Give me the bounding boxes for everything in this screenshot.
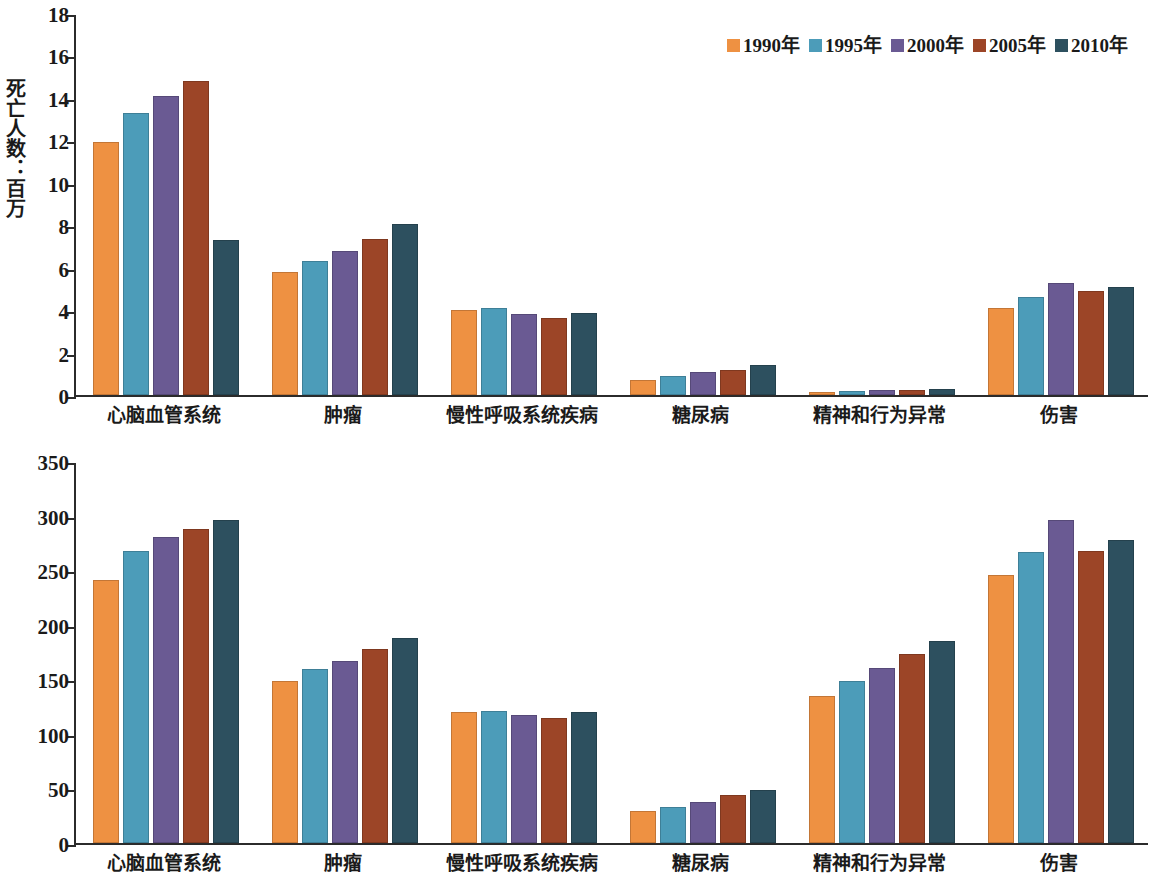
x-axis-labels-deaths: 心脑血管系统肿瘤慢性呼吸系统疾病糖尿病精神和行为异常伤害 xyxy=(74,400,1146,430)
bar xyxy=(899,390,925,395)
y-axis-tick-label: 2 xyxy=(59,342,70,367)
bar xyxy=(511,715,537,843)
x-axis-label: 心脑血管系统 xyxy=(107,400,221,427)
y-axis-tick-label: 250 xyxy=(38,560,70,585)
bar xyxy=(511,314,537,395)
x-axis-label: 精神和行为异常 xyxy=(813,400,946,427)
x-axis-label: 肿瘤 xyxy=(324,848,362,875)
bar-group xyxy=(971,463,1150,843)
bar xyxy=(809,392,835,395)
bar xyxy=(481,711,507,843)
x-axis-label: 伤害 xyxy=(1040,400,1078,427)
bar xyxy=(630,380,656,395)
bar xyxy=(1048,283,1074,395)
y-axis-tick-label: 6 xyxy=(59,257,70,282)
bar-group xyxy=(792,15,971,395)
bar xyxy=(362,239,388,395)
bar xyxy=(1048,520,1074,843)
bar xyxy=(302,261,328,395)
x-axis-label: 伤害 xyxy=(1040,848,1078,875)
bar xyxy=(750,365,776,395)
bar xyxy=(929,641,955,843)
y-axis-tick-label: 14 xyxy=(48,87,69,112)
bar xyxy=(123,551,149,844)
bar xyxy=(481,308,507,395)
bar xyxy=(571,712,597,843)
y-axis-tick-label: 0 xyxy=(59,833,70,858)
plot-area-deaths: 024681012141618 xyxy=(74,15,1148,397)
y-axis-tick-label: 18 xyxy=(48,3,69,28)
bar xyxy=(899,654,925,843)
bar xyxy=(1108,287,1134,395)
bar xyxy=(1018,552,1044,843)
bar-group xyxy=(76,463,255,843)
bar xyxy=(153,96,179,395)
bar-group xyxy=(971,15,1150,395)
bar xyxy=(392,224,418,395)
bar xyxy=(332,661,358,843)
bar xyxy=(988,575,1014,843)
bar xyxy=(541,718,567,844)
bars-container-deaths xyxy=(76,15,1148,395)
bar xyxy=(451,712,477,843)
bar xyxy=(720,795,746,843)
bar xyxy=(1108,540,1134,843)
bar xyxy=(869,390,895,395)
bars-container-daly xyxy=(76,463,1148,843)
bar xyxy=(362,649,388,843)
y-axis-tick-label: 0 xyxy=(59,385,70,410)
x-axis-label: 糖尿病 xyxy=(672,848,729,875)
x-axis-label: 精神和行为异常 xyxy=(813,848,946,875)
y-axis-tick-label: 100 xyxy=(38,723,70,748)
bar xyxy=(93,142,119,395)
x-axis-label: 糖尿病 xyxy=(672,400,729,427)
bar xyxy=(839,681,865,843)
bar xyxy=(272,681,298,843)
y-axis-tick-label: 12 xyxy=(48,130,69,155)
bar-group xyxy=(255,463,434,843)
y-axis-tick-label: 150 xyxy=(38,669,70,694)
deaths-chart-panel: 死亡人数：百万 1990年1995年2000年2005年2010年 024681… xyxy=(0,0,1157,440)
bar xyxy=(93,580,119,843)
bar xyxy=(750,790,776,843)
y-axis-tick-label: 50 xyxy=(48,778,69,803)
y-axis-tick-label: 8 xyxy=(59,215,70,240)
y-axis-tick-label: 300 xyxy=(38,505,70,530)
bar xyxy=(213,240,239,395)
bar xyxy=(1078,551,1104,844)
bar xyxy=(392,638,418,843)
bar xyxy=(630,811,656,843)
bar xyxy=(690,802,716,843)
bar xyxy=(720,370,746,395)
bar-group xyxy=(255,15,434,395)
bar xyxy=(213,520,239,843)
y-axis-tick-label: 16 xyxy=(48,45,69,70)
y-axis-tick-label: 350 xyxy=(38,451,70,476)
bar xyxy=(123,113,149,395)
bar-group xyxy=(434,463,613,843)
bar xyxy=(660,807,686,843)
x-axis-label: 慢性呼吸系统疾病 xyxy=(446,400,598,427)
plot-area-daly: 050100150200250300350 xyxy=(74,463,1148,845)
chart-page: 死亡人数：百万 1990年1995年2000年2005年2010年 024681… xyxy=(0,0,1157,883)
x-axis-labels-daly: 心脑血管系统肿瘤慢性呼吸系统疾病糖尿病精神和行为异常伤害 xyxy=(74,848,1146,878)
bar xyxy=(541,318,567,395)
bar xyxy=(809,696,835,843)
bar xyxy=(1018,297,1044,395)
bar xyxy=(1078,291,1104,395)
x-axis-label: 慢性呼吸系统疾病 xyxy=(446,848,598,875)
y-axis-tick-label: 10 xyxy=(48,172,69,197)
bar xyxy=(183,81,209,395)
bar xyxy=(839,391,865,395)
bar-group xyxy=(613,15,792,395)
bar xyxy=(272,272,298,395)
x-axis-label: 心脑血管系统 xyxy=(107,848,221,875)
y-axis-tick-label: 200 xyxy=(38,614,70,639)
bar xyxy=(988,308,1014,395)
y-axis-tick-label: 4 xyxy=(59,300,70,325)
bar xyxy=(690,372,716,395)
bar xyxy=(332,251,358,395)
bar xyxy=(451,310,477,395)
bar-group xyxy=(792,463,971,843)
bar-group xyxy=(434,15,613,395)
